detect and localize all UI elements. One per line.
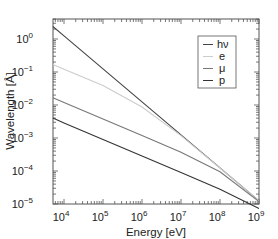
legend: hν e μ p	[198, 36, 236, 88]
x-axis-label: Energy [eV]	[126, 226, 186, 238]
legend-label-hv: hν	[217, 38, 229, 50]
x-tick-0: 104	[53, 209, 70, 223]
y-axis-label: Wavelength [Å]	[4, 72, 16, 150]
legend-label-e: e	[219, 50, 225, 62]
x-tick-1: 105	[92, 209, 109, 223]
legend-label-mu: μ	[219, 62, 225, 74]
x-tick-labels: 104 105 106 107 108 109	[53, 209, 265, 223]
y-tick-5: 10−5	[12, 196, 34, 210]
y-tick-4: 10−4	[12, 163, 34, 177]
x-tick-5: 109	[248, 209, 265, 223]
x-tick-2: 106	[131, 209, 148, 223]
series-line-3	[53, 118, 259, 208]
x-tick-4: 108	[209, 209, 226, 223]
legend-label-p: p	[219, 74, 225, 86]
x-tick-3: 107	[170, 209, 187, 223]
y-tick-0: 100	[16, 31, 33, 45]
wavelength-energy-chart: 100 10−1 10−2 10−3 10−4 10−5 104 105 106…	[0, 0, 278, 239]
